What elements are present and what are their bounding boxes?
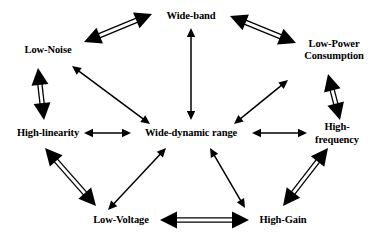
node-wide-band[interactable]: Wide-band — [165, 10, 216, 23]
spoke-high-linearity-center — [84, 129, 131, 137]
spoke-low-power-center — [234, 80, 288, 124]
edge-high-frequency-high-gain — [283, 148, 328, 206]
edge-low-noise-wide-band — [84, 13, 152, 44]
edge-high-linearity-low-noise — [32, 68, 51, 120]
edge-low-voltage-high-linearity — [45, 148, 96, 206]
spoke-low-noise-center — [72, 66, 150, 124]
diagram-canvas: Wide-dynamic rangeWide-bandLow-Power Con… — [0, 0, 382, 245]
node-high-linearity[interactable]: High-linearity — [16, 127, 80, 140]
node-high-frequency[interactable]: High-frequency — [314, 121, 360, 146]
spoke-wide-band-center — [187, 28, 195, 120]
edge-low-power-high-frequency — [324, 74, 344, 120]
node-high-gain[interactable]: High-Gain — [259, 214, 308, 227]
spoke-high-gain-center — [210, 148, 245, 208]
node-wide-dynamic-range[interactable]: Wide-dynamic range — [144, 127, 238, 140]
node-low-voltage[interactable]: Low-Voltage — [92, 214, 150, 227]
edge-high-gain-low-voltage — [160, 212, 249, 229]
node-low-power-consumption[interactable]: Low-Power Consumption — [303, 38, 365, 62]
node-low-noise[interactable]: Low-Noise — [24, 44, 73, 57]
spoke-high-frequency-center — [252, 129, 307, 137]
edge-wide-band-low-power — [230, 15, 296, 45]
spoke-low-voltage-center — [108, 148, 166, 210]
